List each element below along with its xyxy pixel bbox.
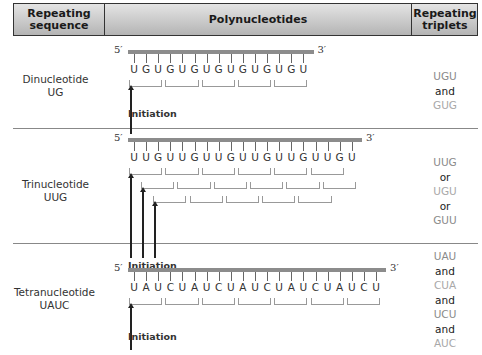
nucleotide: A xyxy=(189,281,201,293)
codon-bracket xyxy=(190,196,223,203)
codon-bracket xyxy=(165,80,198,87)
nucleotide: A xyxy=(140,281,152,293)
base-stick xyxy=(146,272,147,281)
row-label-tetranucleotide: TetranucleotideUAUC xyxy=(2,286,107,312)
nucleotide: A xyxy=(285,281,297,293)
nucleotide: U xyxy=(249,63,261,75)
base-stick xyxy=(219,142,220,151)
codon-bracket xyxy=(238,168,271,175)
codon-bracket xyxy=(274,168,307,175)
nucleotide: U xyxy=(201,281,213,293)
header-repeating-triplets: Repeatingtriplets xyxy=(412,4,478,35)
codon-bracket xyxy=(286,182,319,189)
nucleotide: U xyxy=(128,63,140,75)
nucleotide: U xyxy=(128,281,140,293)
codon-bracket xyxy=(129,298,162,305)
base-stick xyxy=(195,142,196,151)
base-stick xyxy=(255,272,256,281)
codon-bracket xyxy=(323,182,356,189)
base-stick xyxy=(255,54,256,63)
codon-bracket xyxy=(238,298,271,305)
base-stick xyxy=(316,142,317,151)
nucleotide: C xyxy=(213,281,225,293)
base-stick xyxy=(279,54,280,63)
codon-bracket xyxy=(177,182,210,189)
base-stick xyxy=(207,142,208,151)
initiation-arrow xyxy=(130,307,132,350)
initiation-arrow xyxy=(130,177,132,258)
nucleotide: U xyxy=(201,63,213,75)
nucleotide: U xyxy=(237,151,249,163)
nucleotide: G xyxy=(285,63,297,75)
nucleotide: G xyxy=(189,151,201,163)
rna-backbone xyxy=(128,268,386,272)
codon-bracket xyxy=(226,196,259,203)
base-stick xyxy=(303,54,304,63)
codon-bracket xyxy=(274,80,307,87)
base-stick xyxy=(134,54,135,63)
initiation-arrow xyxy=(142,191,144,258)
nucleotide: G xyxy=(189,63,201,75)
base-stick xyxy=(303,272,304,281)
nucleotide: U xyxy=(164,151,176,163)
base-stick xyxy=(182,142,183,151)
base-stick xyxy=(340,142,341,151)
nucleotide: C xyxy=(358,281,370,293)
three-prime-label: 3′ xyxy=(390,262,399,273)
nucleotide: G xyxy=(334,151,346,163)
base-stick xyxy=(291,54,292,63)
base-stick xyxy=(243,272,244,281)
nucleotide: U xyxy=(176,281,188,293)
nucleotide: U xyxy=(176,63,188,75)
base-stick xyxy=(279,272,280,281)
base-stick xyxy=(267,54,268,63)
nucleotide: U xyxy=(201,151,213,163)
row-divider xyxy=(13,128,478,129)
base-stick xyxy=(231,272,232,281)
nucleotide: G xyxy=(297,151,309,163)
nucleotide: G xyxy=(237,63,249,75)
nucleotide: U xyxy=(322,281,334,293)
base-stick xyxy=(267,142,268,151)
nucleotide: G xyxy=(152,151,164,163)
base-stick xyxy=(146,142,147,151)
base-stick xyxy=(352,142,353,151)
row-divider xyxy=(13,243,478,244)
nucleotide: G xyxy=(225,151,237,163)
base-stick xyxy=(243,142,244,151)
base-stick xyxy=(376,272,377,281)
initiation-label: Initiation xyxy=(128,331,177,342)
codon-bracket xyxy=(129,168,162,175)
nucleotide: U xyxy=(273,281,285,293)
nucleotide: U xyxy=(249,281,261,293)
five-prime-label: 5′ xyxy=(114,262,123,273)
nucleotide: A xyxy=(237,281,249,293)
base-stick xyxy=(170,54,171,63)
base-stick xyxy=(158,54,159,63)
base-stick xyxy=(219,272,220,281)
base-stick xyxy=(207,272,208,281)
base-stick xyxy=(291,142,292,151)
base-stick xyxy=(170,272,171,281)
table-header: Repeatingsequence Polynucleotides Repeat… xyxy=(13,3,478,36)
nucleotide: U xyxy=(176,151,188,163)
three-prime-label: 3′ xyxy=(366,132,375,143)
nucleotide: G xyxy=(261,63,273,75)
base-stick xyxy=(170,142,171,151)
base-stick xyxy=(158,272,159,281)
base-stick xyxy=(134,272,135,281)
codon-bracket xyxy=(262,196,295,203)
nucleotide: U xyxy=(128,151,140,163)
codon-bracket xyxy=(311,168,344,175)
nucleotide: A xyxy=(334,281,346,293)
rna-backbone xyxy=(128,50,314,54)
base-stick xyxy=(231,54,232,63)
nucleotide: U xyxy=(273,151,285,163)
base-stick xyxy=(182,54,183,63)
nucleotide: U xyxy=(285,151,297,163)
base-stick xyxy=(303,142,304,151)
codon-bracket xyxy=(129,80,162,87)
codon-bracket xyxy=(202,298,235,305)
codon-bracket xyxy=(347,298,380,305)
nucleotide: U xyxy=(322,151,334,163)
